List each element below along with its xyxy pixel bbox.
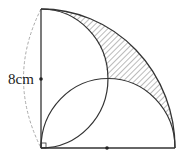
side-length-label: 8cm <box>8 71 34 87</box>
right-angle-mark <box>41 143 46 148</box>
midpoint-dot-vertical <box>39 77 43 81</box>
midpoint-dot-base <box>105 146 109 150</box>
geometry-diagram: 8cm <box>0 0 180 159</box>
